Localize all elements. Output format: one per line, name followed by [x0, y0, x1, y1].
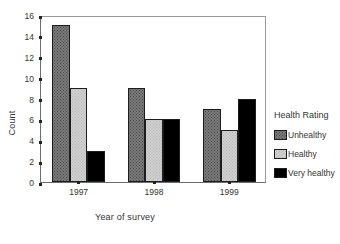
y-axis-title: Count	[7, 93, 17, 153]
bar-chart: Count Year of survey 0246810121416 19971…	[0, 0, 340, 244]
y-tick-mark	[39, 78, 42, 81]
legend-swatch-icon	[274, 168, 287, 178]
bar	[128, 88, 146, 182]
legend-item-label: Very healthy	[288, 168, 335, 178]
plot-area: 0246810121416 199719981999	[40, 16, 266, 183]
x-tick-label: 1999	[207, 187, 251, 197]
y-tick-label: 6	[29, 116, 34, 125]
y-tick-label: 16	[25, 12, 34, 21]
y-tick-label: 0	[29, 179, 34, 188]
legend-item-label: Unhealthy	[288, 130, 326, 140]
bar	[52, 25, 70, 182]
y-tick-label: 14	[25, 33, 34, 42]
bar	[87, 151, 105, 182]
bar	[203, 109, 221, 182]
y-tick-mark	[39, 16, 42, 19]
x-axis-title: Year of survey	[40, 212, 210, 222]
y-tick-mark	[39, 57, 42, 60]
bar	[238, 99, 256, 183]
y-tick-mark	[39, 162, 42, 165]
bar	[145, 119, 163, 182]
legend-swatch-icon	[274, 149, 287, 159]
legend-item[interactable]: Very healthy	[274, 167, 340, 178]
y-tick-mark	[39, 120, 42, 123]
legend-item-label: Healthy	[288, 149, 317, 159]
x-tick-label: 1997	[57, 187, 101, 197]
legend-item[interactable]: Unhealthy	[274, 129, 340, 140]
y-tick-label: 8	[29, 96, 34, 105]
bar	[70, 88, 88, 182]
y-tick-label: 12	[25, 54, 34, 63]
legend: Health Rating UnhealthyHealthyVery healt…	[274, 110, 340, 186]
legend-title: Health Rating	[274, 110, 340, 120]
bar	[221, 130, 239, 182]
y-tick-mark	[39, 36, 42, 39]
y-tick-mark	[39, 141, 42, 144]
y-tick-label: 4	[29, 137, 34, 146]
legend-item[interactable]: Healthy	[274, 148, 340, 159]
legend-items: UnhealthyHealthyVery healthy	[274, 129, 340, 178]
y-tick-label: 2	[29, 158, 34, 167]
y-tick-mark	[39, 183, 42, 186]
legend-swatch-icon	[274, 130, 287, 140]
y-tick-label: 10	[25, 75, 34, 84]
x-tick-label: 1998	[132, 187, 176, 197]
y-tick-mark	[39, 99, 42, 102]
bar	[163, 119, 181, 182]
